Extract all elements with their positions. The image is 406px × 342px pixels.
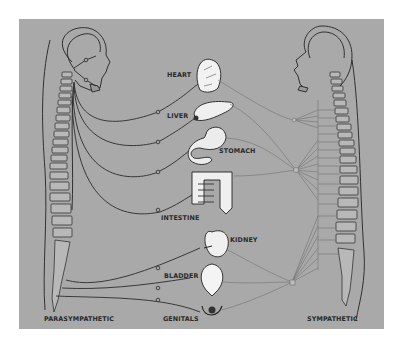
organ-label-genitals: GENITALS: [163, 316, 199, 322]
stomach-icon: [188, 127, 226, 164]
sympathetic-ganglia: [290, 118, 299, 285]
sympathetic-nerves: [218, 80, 340, 310]
parasympathetic-ganglia: [84, 58, 160, 302]
kidney-icon: [204, 231, 228, 257]
organ-label-bladder: BLADDER: [164, 273, 199, 279]
heart-icon: [197, 59, 221, 92]
autonomic-diagram: [0, 0, 406, 342]
liver-icon: [194, 102, 234, 121]
division-label-parasympathetic: PARASYMPATHETIC: [44, 316, 114, 322]
organ-label-intestine: INTESTINE: [161, 215, 199, 221]
division-label-sympathetic: SYMPATHETIC: [307, 316, 358, 322]
left-spine: [50, 72, 72, 312]
intestine-icon: [192, 172, 232, 214]
organ-label-heart: HEART: [167, 72, 191, 78]
organ-label-liver: LIVER: [167, 113, 188, 119]
bladder-icon: [201, 264, 223, 296]
organ-label-stomach: STOMACH: [219, 148, 255, 154]
genitals-icon: [202, 306, 222, 315]
organ-label-kidney: KIDNEY: [230, 237, 258, 243]
right-spine: [330, 72, 358, 306]
